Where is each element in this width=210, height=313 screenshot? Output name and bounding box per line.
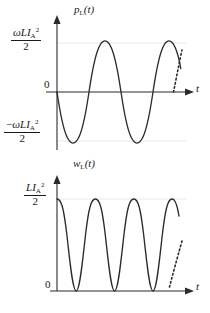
waveform-figure: pL(t) ωLIA2 2 0 −ωLIA2 2 t xyxy=(0,0,210,313)
energy-plot-svg xyxy=(0,155,210,305)
energy-y-axis-arrowhead xyxy=(53,175,60,184)
power-ytick-negative: −ωLIA2 2 xyxy=(4,119,40,144)
power-ytick-positive: ωLIA2 2 xyxy=(11,27,41,52)
caption-clipped-strip xyxy=(0,303,210,313)
energy-y-axis-label: wL(t) xyxy=(73,158,95,171)
power-y-axis-arrowhead xyxy=(53,15,60,24)
chart-stored-energy: wL(t) LIA2 2 0 t xyxy=(0,155,210,305)
energy-ytick-max: LIA2 2 xyxy=(24,182,46,207)
energy-x-axis-label: t xyxy=(196,281,199,292)
power-ytick-zero: 0 xyxy=(44,79,50,90)
energy-x-axis-arrowhead xyxy=(185,287,194,294)
energy-ytick-zero: 0 xyxy=(45,279,51,290)
energy-continuation-dashes xyxy=(170,241,183,287)
chart-instantaneous-power: pL(t) ωLIA2 2 0 −ωLIA2 2 t xyxy=(0,0,210,158)
energy-waveform xyxy=(57,199,179,291)
power-y-axis-label: pL(t) xyxy=(74,4,94,17)
power-x-axis-label: t xyxy=(196,83,199,94)
power-x-axis-arrowhead xyxy=(185,88,194,95)
